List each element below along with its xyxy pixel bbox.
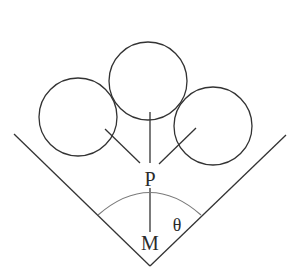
balls	[39, 42, 252, 165]
ball-left	[39, 78, 117, 156]
label-theta: θ	[173, 215, 182, 235]
line-left-to-p	[105, 129, 140, 163]
groove-right-wall	[150, 135, 286, 266]
diagram-canvas: P M θ	[0, 0, 302, 277]
label-p: P	[144, 168, 155, 190]
label-m: M	[141, 232, 159, 254]
ball-top	[109, 42, 187, 120]
ball-right	[174, 87, 252, 165]
